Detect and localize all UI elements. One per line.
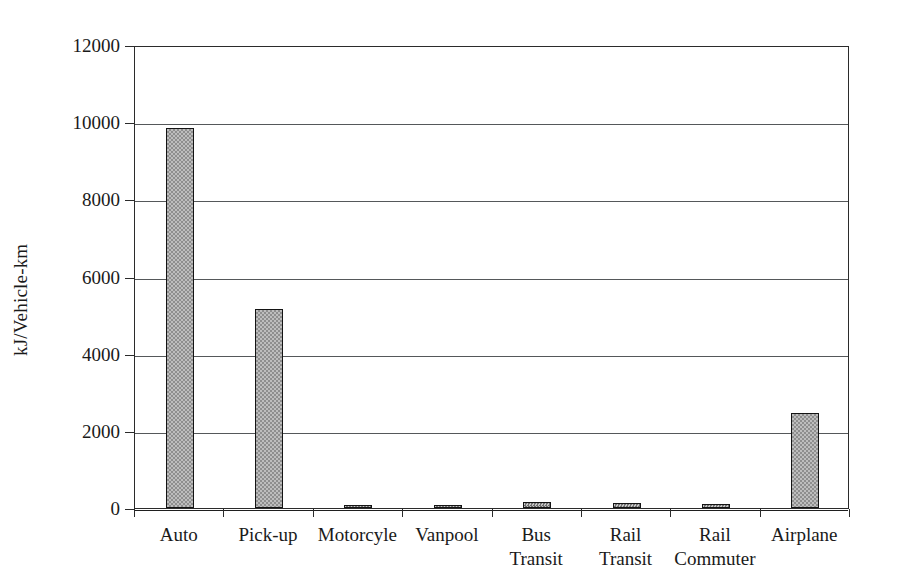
bar <box>523 502 551 508</box>
y-axis-tick-label: 0 <box>0 498 120 520</box>
x-axis-tick-mark <box>849 509 850 517</box>
bar <box>344 505 372 508</box>
plot-area <box>134 46 849 509</box>
x-axis-label: BusTransit <box>492 523 581 571</box>
y-axis-title-text: kJ/Vehicle-km <box>10 243 32 355</box>
bars <box>135 47 848 508</box>
x-axis-label-line2: Transit <box>581 547 670 571</box>
bar <box>702 504 730 508</box>
y-axis-tick-mark <box>125 432 134 433</box>
y-axis-tick-mark <box>125 355 134 356</box>
x-axis-label-line2: Commuter <box>670 547 759 571</box>
bar <box>613 503 641 508</box>
x-axis-label-line1: Airplane <box>771 524 837 545</box>
y-axis-tick-mark <box>125 509 134 510</box>
x-axis-tick-mark <box>223 509 224 517</box>
x-axis-tick-mark <box>134 509 135 517</box>
y-axis-tick-label: 12000 <box>0 35 120 57</box>
x-axis-label: RailCommuter <box>670 523 759 571</box>
x-axis-label-line1: Vanpool <box>415 524 478 545</box>
y-axis-tick-label: 10000 <box>0 112 120 134</box>
x-axis-tick-mark <box>313 509 314 517</box>
y-axis-tick-mark <box>125 46 134 47</box>
x-axis-label-line1: Rail <box>699 524 731 545</box>
bar <box>434 505 462 508</box>
x-axis-label-line1: Pick-up <box>239 524 298 545</box>
bar <box>166 128 194 508</box>
bar-chart-figure: kJ/Vehicle-km 02000400060008000100001200… <box>0 0 899 588</box>
x-axis-label: Auto <box>134 523 223 547</box>
x-axis-label-line1: Rail <box>610 524 642 545</box>
x-axis-label-line2: Transit <box>492 547 581 571</box>
y-axis-tick-mark <box>125 200 134 201</box>
y-axis-tick-mark <box>125 123 134 124</box>
x-axis-label: Pick-up <box>223 523 312 547</box>
y-axis-tick-label: 8000 <box>0 189 120 211</box>
x-axis-label-line1: Bus <box>521 524 551 545</box>
x-axis-label: RailTransit <box>581 523 670 571</box>
x-axis-tick-mark <box>760 509 761 517</box>
x-axis-label: Motorcyle <box>313 523 402 547</box>
y-axis-tick-label: 4000 <box>0 344 120 366</box>
y-axis-tick-label: 6000 <box>0 267 120 289</box>
bar <box>255 309 283 508</box>
y-axis-tick-label: 2000 <box>0 421 120 443</box>
x-axis-tick-mark <box>581 509 582 517</box>
x-axis-label: Vanpool <box>402 523 491 547</box>
x-axis-tick-mark <box>670 509 671 517</box>
x-axis-label-line1: Auto <box>160 524 198 545</box>
x-axis-tick-mark <box>492 509 493 517</box>
bar <box>791 413 819 508</box>
x-axis-label: Airplane <box>760 523 849 547</box>
y-axis-tick-mark <box>125 278 134 279</box>
x-axis-label-line1: Motorcyle <box>318 524 397 545</box>
x-axis-tick-mark <box>402 509 403 517</box>
